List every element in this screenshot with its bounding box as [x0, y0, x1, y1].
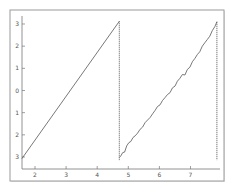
y-tick-label: 1	[15, 109, 19, 116]
y-tick-label: 2	[15, 131, 19, 138]
y-tick-label: 1	[15, 64, 19, 71]
y-tick-label: 3	[15, 153, 19, 160]
figure-frame	[10, 10, 224, 181]
x-tick-label: 2	[33, 171, 37, 178]
x-tick-label: 6	[157, 171, 161, 178]
y-tick-label: 2	[15, 42, 19, 49]
x-tick-label: 4	[95, 171, 99, 178]
chart: 234567 3210123	[0, 0, 237, 188]
x-tick-label: 3	[64, 171, 68, 178]
x-tick-label: 7	[189, 171, 193, 178]
y-tick-label: 3	[15, 20, 19, 27]
x-tick-label: 5	[126, 171, 130, 178]
y-tick-label: 0	[15, 87, 19, 94]
